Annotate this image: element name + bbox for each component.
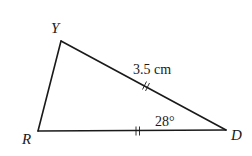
angle-label: 28° <box>155 114 175 129</box>
side-yr <box>38 41 61 131</box>
vertex-label-d: D <box>230 127 242 143</box>
triangle-diagram: Y R D 3.5 cm 28° <box>0 0 252 156</box>
vertex-label-y: Y <box>51 20 61 36</box>
side-rd <box>38 130 226 131</box>
side-length-label: 3.5 cm <box>133 62 171 77</box>
vertex-label-r: R <box>21 131 31 147</box>
side-yd <box>61 41 226 130</box>
